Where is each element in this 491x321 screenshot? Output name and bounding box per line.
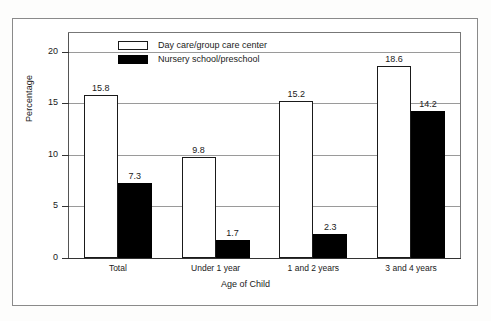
y-axis-tick-label: 10	[36, 150, 58, 159]
bar-nursery-school	[216, 240, 250, 258]
y-axis-tick	[62, 52, 69, 53]
bar-value-label: 2.3	[305, 222, 355, 232]
x-axis-title: Age of Child	[0, 279, 491, 289]
bar-day-care	[279, 101, 313, 258]
plot-area: 15.87.39.81.715.22.318.614.2	[69, 33, 460, 258]
y-axis-line	[68, 33, 69, 259]
legend-item-nursery-school: Nursery school/preschool	[118, 52, 267, 66]
bar-nursery-school	[118, 183, 152, 258]
y-axis-tick-label: 0	[36, 253, 58, 262]
bar-value-label: 15.2	[271, 89, 321, 99]
chart-screenshot: 15.87.39.81.715.22.318.614.2 05101520 Pe…	[0, 0, 491, 321]
legend-swatch-icon-dark	[118, 55, 148, 64]
bar-value-label: 18.6	[369, 54, 419, 64]
bar-value-label: 7.3	[110, 171, 160, 181]
bar-day-care	[182, 157, 216, 258]
legend-swatch-icon-light	[118, 41, 148, 50]
x-axis-category-label: 3 and 4 years	[362, 263, 460, 273]
bar-nursery-school	[411, 111, 445, 258]
x-axis-line	[68, 258, 461, 259]
bar-value-label: 1.7	[208, 228, 258, 238]
chart-legend: Day care/group care center Nursery schoo…	[118, 38, 267, 66]
legend-label-nursery-school: Nursery school/preschool	[158, 54, 260, 64]
legend-item-day-care: Day care/group care center	[118, 38, 267, 52]
y-axis-tick-label: 15	[36, 98, 58, 107]
legend-label-day-care: Day care/group care center	[158, 40, 267, 50]
x-axis-category-label: Under 1 year	[167, 263, 265, 273]
y-axis-tick	[62, 155, 69, 156]
y-axis-tick	[62, 103, 69, 104]
bar-nursery-school	[313, 234, 347, 258]
x-axis-category-label: Total	[69, 263, 167, 273]
y-axis-tick	[62, 206, 69, 207]
bar-value-label: 9.8	[174, 145, 224, 155]
y-axis-tick	[62, 258, 69, 259]
bar-value-label: 14.2	[403, 99, 453, 109]
y-axis-title: Percentage	[24, 75, 34, 122]
bar-day-care	[377, 66, 411, 258]
y-axis-tick-label: 5	[36, 201, 58, 210]
x-axis-category-label: 1 and 2 years	[265, 263, 363, 273]
bar-value-label: 15.8	[76, 83, 126, 93]
y-axis-tick-label: 20	[36, 47, 58, 56]
